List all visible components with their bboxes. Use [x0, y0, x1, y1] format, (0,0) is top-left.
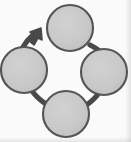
- node-top: [47, 5, 93, 51]
- cycle-diagram: [0, 0, 131, 142]
- node-right: [81, 49, 127, 95]
- node-group: [1, 5, 127, 137]
- connector-bottom-to-left: [32, 91, 46, 104]
- node-left: [1, 47, 47, 93]
- diagram-svg: [0, 0, 131, 142]
- node-bottom: [43, 91, 89, 137]
